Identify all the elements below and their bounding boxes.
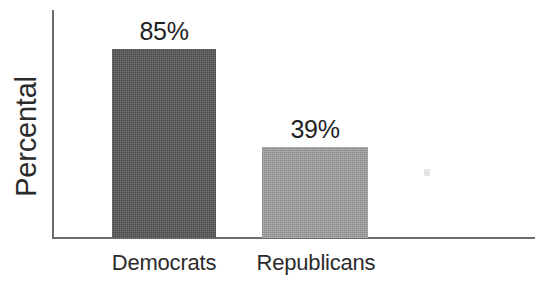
bar-democrats	[112, 49, 216, 238]
plot-area: 85% 39% Democrats Republicans	[0, 0, 541, 283]
category-label-republicans: Republicans	[243, 250, 389, 276]
value-label-republicans: 39%	[262, 115, 368, 144]
category-label-democrats: Democrats	[94, 250, 234, 276]
value-label-democrats: 85%	[112, 17, 216, 46]
bar-republicans	[262, 147, 368, 238]
bar-chart-figure: Percental 85% 39% Democrats Republicans	[0, 0, 541, 283]
